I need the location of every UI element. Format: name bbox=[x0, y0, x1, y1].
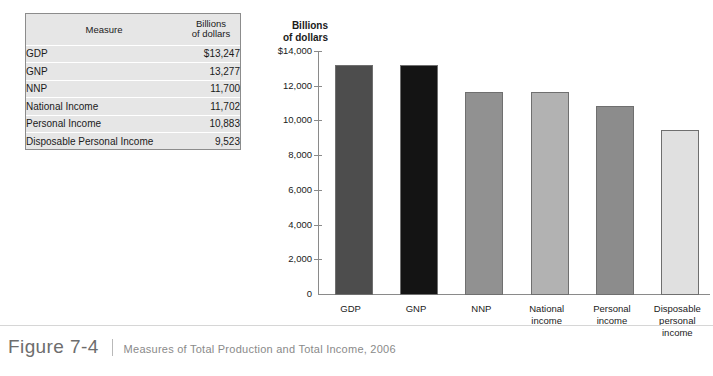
x-axis-label: GNP bbox=[383, 303, 448, 315]
y-axis-tick-label: 4,000 bbox=[262, 220, 312, 230]
table-row: Disposable Personal Income9,523 bbox=[26, 133, 240, 151]
x-axis-label: Nationalincome bbox=[514, 303, 579, 327]
table-cell-measure: Disposable Personal Income bbox=[26, 133, 182, 151]
y-axis-tick-label: 12,000 bbox=[262, 81, 312, 91]
x-axis-label-line: NNP bbox=[449, 303, 514, 315]
figure-caption-text: Measures of Total Production and Total I… bbox=[124, 343, 396, 355]
plot-area: $14,00012,00010,0008,0006,0004,0002,0000… bbox=[318, 51, 713, 296]
table-row: GDP$13,247 bbox=[26, 45, 240, 63]
table-cell-measure: National Income bbox=[26, 98, 182, 116]
measures-table-grid: Measure Billions of dollars GDP$13,247GN… bbox=[26, 14, 240, 150]
y-axis-tick-label: 10,000 bbox=[262, 116, 312, 126]
y-axis-tick-label: 8,000 bbox=[262, 150, 312, 160]
column-header-measure: Measure bbox=[26, 14, 182, 45]
x-axis-label-line: GNP bbox=[383, 303, 448, 315]
x-axis-label-line: income bbox=[645, 327, 710, 339]
bar-national-income bbox=[531, 92, 569, 295]
table-cell-value: 9,523 bbox=[182, 133, 240, 151]
x-axis-line bbox=[318, 294, 710, 295]
y-axis-tick-label: 6,000 bbox=[262, 185, 312, 195]
measures-table: Measure Billions of dollars GDP$13,247GN… bbox=[25, 13, 241, 150]
x-axis-label-line: Disposable bbox=[645, 303, 710, 315]
bar-gnp bbox=[400, 65, 438, 295]
y-axis-tick-mark bbox=[314, 86, 322, 87]
x-axis-label: Personalincome bbox=[579, 303, 644, 327]
y-axis-title: Billions of dollars bbox=[266, 20, 328, 44]
bar-nnp bbox=[465, 92, 503, 295]
table-cell-measure: GNP bbox=[26, 63, 182, 81]
x-axis-label-line: Personal bbox=[579, 303, 644, 315]
table-cell-value: 10,883 bbox=[182, 115, 240, 133]
y-axis-title-line2: of dollars bbox=[266, 32, 328, 44]
table-cell-measure: GDP bbox=[26, 45, 182, 63]
figure-caption: Figure 7-4 Measures of Total Production … bbox=[8, 336, 396, 358]
table-cell-value: 11,702 bbox=[182, 98, 240, 116]
table-cell-value: 11,700 bbox=[182, 80, 240, 98]
y-axis-tick-mark bbox=[314, 190, 322, 191]
y-axis-tick-mark bbox=[314, 120, 322, 121]
bar-gdp bbox=[335, 65, 373, 295]
bar-disposable-personal-income bbox=[661, 130, 699, 295]
y-axis-tick-mark bbox=[314, 225, 322, 226]
table-row: NNP11,700 bbox=[26, 80, 240, 98]
bar-chart: Billions of dollars $14,00012,00010,0008… bbox=[262, 8, 713, 338]
y-axis-tick-label: 2,000 bbox=[262, 255, 312, 265]
bar-personal-income bbox=[596, 106, 634, 295]
caption-separator-icon bbox=[112, 339, 113, 356]
y-axis-line bbox=[318, 51, 319, 294]
table-cell-measure: NNP bbox=[26, 80, 182, 98]
y-axis-tick-mark bbox=[314, 155, 322, 156]
y-axis-title-line1: Billions bbox=[266, 20, 328, 32]
column-header-billions-line2: of dollars bbox=[182, 29, 240, 40]
table-cell-measure: Personal Income bbox=[26, 115, 182, 133]
table-cell-value: $13,247 bbox=[182, 45, 240, 63]
table-row: National Income11,702 bbox=[26, 98, 240, 116]
y-axis-tick-label: $14,000 bbox=[262, 46, 312, 56]
x-axis-label-line: GDP bbox=[318, 303, 383, 315]
column-header-billions: Billions of dollars bbox=[182, 14, 240, 45]
x-axis-label: GDP bbox=[318, 303, 383, 315]
x-axis-label: Disposablepersonalincome bbox=[645, 303, 710, 339]
y-axis-tick-mark bbox=[314, 259, 322, 260]
x-axis-label: NNP bbox=[449, 303, 514, 315]
table-row: GNP13,277 bbox=[26, 63, 240, 81]
x-axis-label-line: National bbox=[514, 303, 579, 315]
y-axis-tick-label: 0 bbox=[262, 289, 312, 299]
figure-number: Figure 7-4 bbox=[8, 336, 99, 358]
table-row: Personal Income10,883 bbox=[26, 115, 240, 133]
y-axis-tick-mark bbox=[314, 51, 322, 52]
caption-divider-rule bbox=[0, 325, 713, 326]
table-header-row: Measure Billions of dollars bbox=[26, 14, 240, 45]
table-cell-value: 13,277 bbox=[182, 63, 240, 81]
